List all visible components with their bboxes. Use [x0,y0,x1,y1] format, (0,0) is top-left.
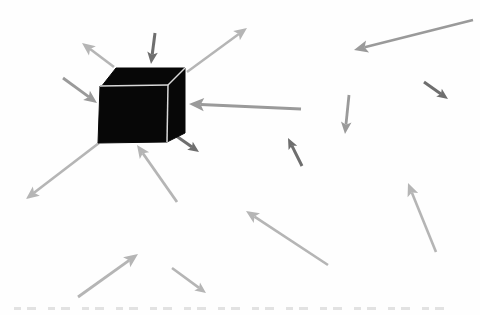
black-cube [98,68,185,143]
arrow-out-bottom-left-long-shaft [34,143,99,193]
arrow-far-top-right-long-shaft [365,20,473,47]
arrow-far-top-right-long [354,20,473,53]
arrow-in-top-down [147,33,157,64]
arrow-in-bottom-shaft [143,153,177,202]
arrow-mid-up-left-dark-shaft [292,146,302,166]
arrow-bottom-up-right-shaft [78,260,129,297]
arrow-in-left [63,78,97,103]
arrow-out-top-left-shaft [90,49,114,67]
arrow-mid-up-left-dark [288,138,302,166]
arrow-out-top-right [187,28,247,72]
cube-highlight-edge-0 [100,85,168,86]
cube-arrows-diagram [0,0,480,315]
arrow-mid-down [341,95,352,134]
figure-canvas [0,0,480,315]
arrow-out-top-left [82,43,114,67]
arrow-mid-down-shaft [346,95,349,125]
arrow-bottom-right-up [408,183,436,252]
cube-front-face [98,85,168,143]
arrow-in-bottom-head [137,145,149,159]
cube-highlight-edge-1 [167,85,168,142]
arrow-in-right-long [189,98,301,111]
arrow-in-bottom [137,145,177,202]
arrow-bottom-up-right [78,254,138,297]
arrow-bottom-right-up-left-shaft [254,217,328,265]
arrow-bottom-right-up-left [246,211,328,265]
arrow-in-left-head [83,91,97,103]
arrow-in-top-down-shaft [152,33,155,55]
arrow-in-right-long-shaft [201,105,301,109]
arrow-out-top-right-head [233,28,247,40]
arrow-bottom-right-up-shaft [412,192,436,252]
arrow-right-down-dark [424,82,448,99]
arrow-out-top-right-shaft [187,34,239,72]
arrow-in-left-shaft [63,78,89,97]
arrows-group [26,20,473,297]
arrow-bottom-right-up-left-head [246,211,260,223]
arrow-right-down-dark-shaft [424,82,441,94]
arrow-out-top-left-head [82,43,96,55]
arrow-bottom-up-right-head [123,254,138,267]
arrow-out-bottom-left-long [26,143,99,199]
arrow-bottom-small-down-right-shaft [172,268,199,288]
arrow-bottom-small-down-right [172,268,206,293]
